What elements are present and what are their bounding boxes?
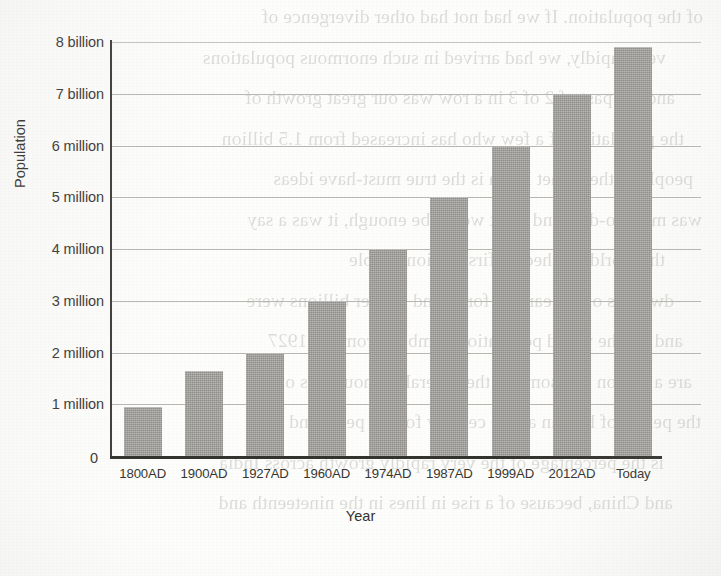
bar-2012AD [553, 94, 591, 456]
bar-1987AD [430, 197, 468, 456]
bar-1800AD [124, 407, 162, 456]
x-axis-tick-label: 1974AD [365, 466, 412, 481]
bar-Today [614, 47, 652, 456]
x-axis-tick-label: 1987AD [426, 466, 473, 481]
chart-page: of the population. If we had not had oth… [0, 0, 721, 576]
x-axis-tick-labels: 1800AD1900AD1927AD1960AD1974AD1987AD1999… [112, 466, 664, 492]
y-axis-tick-label: 3 million [52, 293, 104, 309]
bar-1900AD [185, 371, 223, 456]
y-axis-zero-label: 0 [90, 450, 98, 466]
x-axis-tick-label: Today [616, 466, 650, 481]
bar-1974AD [369, 249, 407, 456]
y-axis-tick-label: 1 million [52, 396, 104, 412]
y-axis-tick-labels: 1 million2 million3 million4 million5 mi… [0, 0, 104, 576]
bar-1999AD [492, 146, 530, 457]
y-axis-tick-label: 2 million [52, 345, 104, 361]
x-axis-tick-label: 1927AD [242, 466, 289, 481]
bar-series [112, 42, 701, 456]
y-axis-tick-label: 6 million [52, 138, 104, 154]
y-axis-tick-label: 8 billion [56, 34, 104, 50]
bar-1927AD [246, 353, 284, 457]
x-axis-line [110, 456, 662, 459]
x-axis-tick-label: 1960AD [303, 466, 350, 481]
plot-area [112, 42, 701, 456]
x-axis-tick-label: 1800AD [119, 466, 166, 481]
y-axis-tick-label: 7 billion [56, 86, 104, 102]
y-axis-line [110, 40, 112, 458]
x-axis-tick-label: 1999AD [487, 466, 534, 481]
y-axis-tick-label: 5 million [52, 189, 104, 205]
x-axis-tick-label: 1900AD [181, 466, 228, 481]
x-axis-tick-label: 2012AD [549, 466, 596, 481]
showthrough-text-line: of the population. If we had not had oth… [262, 6, 703, 28]
bar-1960AD [308, 301, 346, 456]
y-axis-tick-label: 4 million [52, 241, 104, 257]
y-axis-title: Population [12, 119, 28, 188]
x-axis-title: Year [0, 508, 721, 524]
